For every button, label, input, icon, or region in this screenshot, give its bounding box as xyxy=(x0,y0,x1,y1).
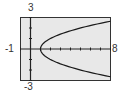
x-min-label: -1 xyxy=(5,44,14,54)
y-min-label: -3 xyxy=(24,82,33,92)
graph-plot xyxy=(0,0,119,93)
y-max-label: 3 xyxy=(28,3,34,13)
x-max-label: 8 xyxy=(112,44,118,54)
